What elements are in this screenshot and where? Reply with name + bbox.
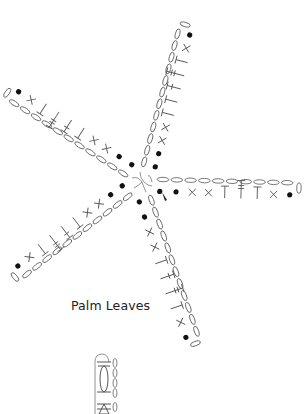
sc-stitch-symbol xyxy=(161,123,170,132)
chain-stitch-oval xyxy=(52,246,63,256)
sc-stitch-symbol xyxy=(145,228,154,237)
chain-stitch-oval xyxy=(113,359,117,368)
chain-stitch-oval xyxy=(21,269,32,279)
sc-stitch-symbol xyxy=(26,95,36,105)
chain-stitch-oval xyxy=(185,178,197,183)
arm-southeast xyxy=(136,195,201,348)
chain-stitch-oval xyxy=(193,326,201,337)
chain-stitch-oval xyxy=(112,200,123,210)
chain-stitch-oval xyxy=(82,223,93,233)
chain-stitch-oval xyxy=(148,195,156,206)
chain-stitch-oval xyxy=(153,110,160,121)
chain-stitch-oval xyxy=(226,179,238,184)
turning-chain-oval xyxy=(297,183,302,194)
chart-center xyxy=(132,172,167,201)
chain-row xyxy=(141,21,191,167)
chain-row xyxy=(148,195,201,348)
chain-stitch-oval xyxy=(168,52,175,63)
chain-stitch-oval xyxy=(159,87,166,98)
chain-stitch-oval xyxy=(74,141,86,151)
chain-stitch-oval xyxy=(106,162,118,172)
chain-stitch-oval xyxy=(164,242,172,253)
sc-stitch-symbol xyxy=(25,252,35,262)
tr-stitch-symbol xyxy=(46,110,62,129)
sc-stitch-symbol xyxy=(189,189,196,196)
sl-stitch-symbol xyxy=(107,191,114,198)
dc-stitch-symbol xyxy=(166,82,182,93)
chain-stitch-oval xyxy=(156,98,163,109)
sl-stitch-symbol xyxy=(15,88,22,95)
hdc-stitch-symbol xyxy=(37,102,50,116)
sc-stitch-symbol xyxy=(94,199,104,209)
sl-stitch-symbol xyxy=(141,214,148,221)
tr-stitch-symbol xyxy=(164,284,184,297)
sl-stitch-symbol xyxy=(136,199,143,206)
chain-stitch-oval xyxy=(160,230,168,241)
center-join-line xyxy=(134,182,142,188)
arm-northwest xyxy=(3,87,136,178)
turning-chain-oval xyxy=(10,272,20,283)
chain-stitch-oval xyxy=(254,180,266,185)
sl-stitch-symbol xyxy=(14,262,21,269)
dc-stitch-symbol xyxy=(58,224,73,240)
chain-stitch-oval xyxy=(63,134,75,144)
stitch-row xyxy=(136,199,189,341)
turning-chain-oval xyxy=(180,21,191,28)
chain-row xyxy=(157,177,301,193)
turning-chain-oval xyxy=(3,87,12,98)
chain-stitch-oval xyxy=(113,369,117,378)
tr-stitch-symbol xyxy=(46,233,63,252)
sc-stitch-symbol xyxy=(158,136,167,145)
sc-stitch-symbol xyxy=(83,208,93,218)
arm-east xyxy=(157,177,301,199)
sl-stitch-symbol xyxy=(157,189,162,194)
chain-stitch-oval xyxy=(19,105,31,115)
loop-line xyxy=(95,354,109,414)
turning-chain-oval xyxy=(190,340,201,348)
hdc-stitch-symbol xyxy=(170,301,184,312)
chain-stitch-oval xyxy=(8,98,20,108)
chain-stitch-oval xyxy=(156,218,164,229)
hdc-stitch-symbol xyxy=(35,242,49,256)
chain-stitch-oval xyxy=(117,169,129,179)
chain-stitch-oval xyxy=(199,178,211,183)
hdc-stitch-symbol xyxy=(165,95,179,106)
arm-southwest xyxy=(10,182,133,282)
chain-stitch-oval xyxy=(144,145,151,156)
chain-stitch-oval xyxy=(152,206,160,217)
sl-stitch-symbol xyxy=(173,189,178,194)
chain-stitch-oval xyxy=(141,156,148,167)
diagram-title: Palm Leaves xyxy=(71,298,150,313)
hdc-stitch-symbol xyxy=(221,186,229,198)
chain-stitch-oval xyxy=(96,155,108,165)
sc-stitch-symbol xyxy=(205,189,212,196)
chain-stitch-oval xyxy=(113,389,117,398)
hdc-stitch-symbol xyxy=(154,256,168,267)
chart-arms xyxy=(3,21,302,347)
chain-stitch-oval xyxy=(268,180,280,185)
arm-north xyxy=(141,21,193,170)
chain-stitch-oval xyxy=(85,148,97,158)
chain-stitch-oval xyxy=(184,302,192,313)
center-join-line xyxy=(144,182,152,186)
tr-stitch-symbol xyxy=(237,180,245,198)
palm-leaves-crochet-chart xyxy=(0,0,306,414)
chain-stitch-oval xyxy=(150,122,157,133)
center-join-line xyxy=(132,178,142,183)
sl-stitch-symbol xyxy=(183,334,190,341)
hdc-stitch-symbol xyxy=(74,126,87,140)
sc-stitch-symbol xyxy=(182,44,191,53)
sl-stitch-symbol xyxy=(287,192,292,197)
hdc-stitch-symbol xyxy=(70,215,84,229)
sc-stitch-symbol xyxy=(102,144,112,154)
start-marker-icon xyxy=(162,192,167,201)
hdc-stitch-symbol xyxy=(175,56,189,67)
sl-stitch-symbol xyxy=(116,153,123,160)
chain-stitch-oval xyxy=(32,261,43,271)
sl-stitch-symbol xyxy=(187,32,193,38)
dc-stitch-symbol xyxy=(159,270,175,282)
chain-stitch-oval xyxy=(147,133,154,144)
secondary-stitch-diagram xyxy=(95,354,117,414)
chain-stitch-oval xyxy=(189,314,197,325)
sc-stitch-symbol xyxy=(150,243,159,252)
